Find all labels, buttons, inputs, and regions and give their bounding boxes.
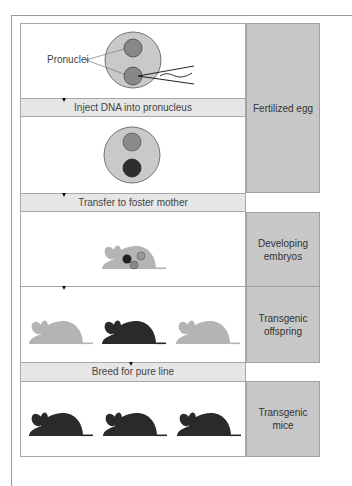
offspring-row <box>29 320 240 344</box>
transgenic-mice-row <box>29 412 241 436</box>
pronucleus-top <box>124 39 142 57</box>
dna-strand-icon <box>160 73 192 77</box>
transgenic-mouse-2-icon <box>103 412 167 436</box>
embryo-dark <box>123 255 132 264</box>
embryo-gray-1 <box>130 261 138 269</box>
offspring-mouse-1-icon <box>29 320 93 344</box>
transgenic-mouse-1-icon <box>29 412 93 436</box>
fertilized-egg-diagram: Pronuclei <box>47 32 194 88</box>
offspring-mouse-3-icon <box>176 320 240 344</box>
pronuclei-label: Pronuclei <box>47 54 89 65</box>
offspring-mouse-2-icon <box>102 320 166 344</box>
foster-mother-diagram <box>102 245 166 269</box>
transgenic-mouse-3-icon <box>177 412 241 436</box>
pronucleus-dark <box>123 159 141 177</box>
pronucleus-gray <box>123 133 141 151</box>
injected-egg-diagram <box>104 127 160 183</box>
embryo-gray-2 <box>137 252 145 260</box>
